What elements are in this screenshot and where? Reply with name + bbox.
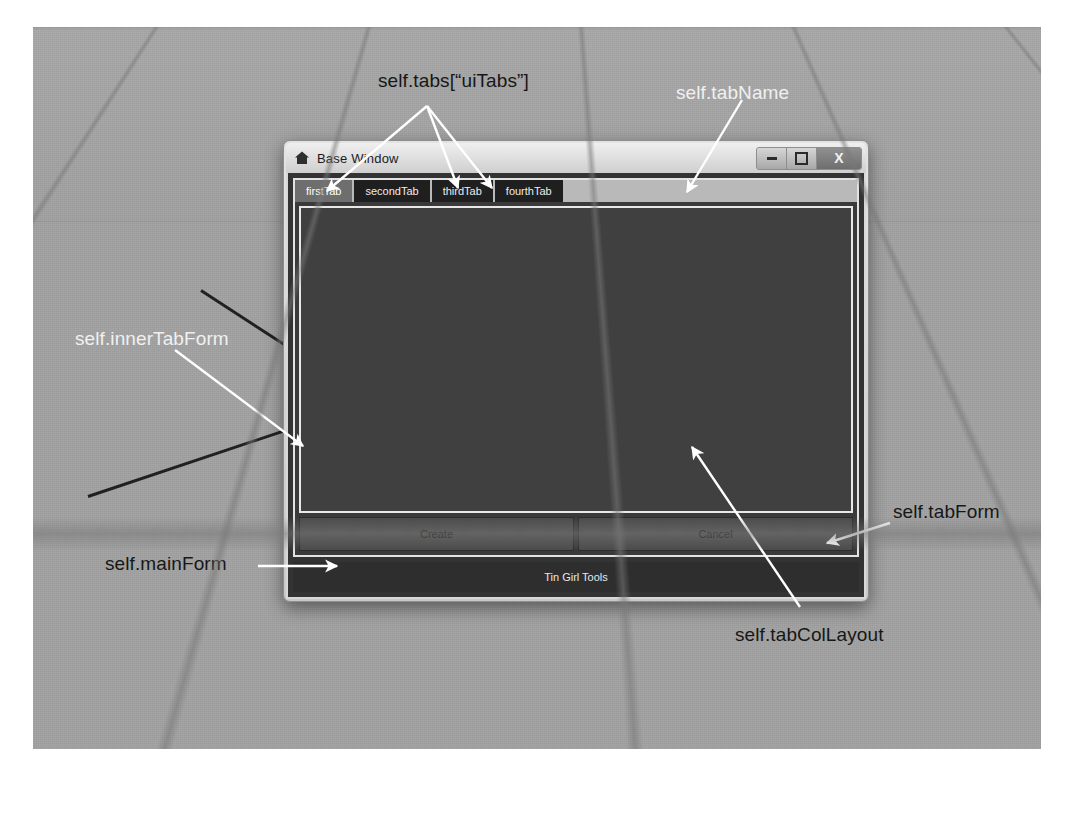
tab-third[interactable]: thirdTab [432,180,495,202]
cancel-button[interactable]: Cancel [578,517,853,551]
tab-label: thirdTab [443,185,482,197]
tab-label: secondTab [365,185,418,197]
tabstrip-empty-area [565,180,857,202]
annotation-tabname: self.tabName [676,82,789,104]
main-form: firstTab secondTab thirdTab fourthTab [286,173,866,599]
annotation-tabform: self.tabForm [893,501,1000,523]
status-bar-text: Tin Girl Tools [544,571,608,583]
window-controls[interactable]: X [756,147,862,170]
maximize-button[interactable] [787,148,817,169]
close-button[interactable]: X [817,148,861,169]
tab-col-layout [295,202,857,517]
tab-form: firstTab secondTab thirdTab fourthTab [293,178,859,557]
tab-label: fourthTab [506,185,552,197]
status-bar: Tin Girl Tools [293,562,859,592]
ui-tabs[interactable]: firstTab secondTab thirdTab fourthTab [295,180,857,202]
base-window[interactable]: Base Window X firstTab secondTab [283,140,869,602]
home-icon [294,150,310,166]
button-row: Create Cancel [295,517,857,555]
tab-second[interactable]: secondTab [354,180,431,202]
annotation-innertabform: self.innerTabForm [75,328,229,350]
window-titlebar[interactable]: Base Window X [286,143,866,173]
close-icon: X [834,151,843,165]
create-button-label: Create [420,528,453,540]
inner-tab-form [299,206,853,513]
tab-fourth[interactable]: fourthTab [495,180,565,202]
annotation-mainform: self.mainForm [105,553,227,575]
maximize-icon [795,152,808,165]
minimize-button[interactable] [757,148,787,169]
annotation-tabcollayout: self.tabColLayout [735,624,884,646]
minimize-icon [767,157,777,160]
create-button[interactable]: Create [299,517,574,551]
window-title: Base Window [317,151,399,166]
tab-first[interactable]: firstTab [295,180,354,202]
cancel-button-label: Cancel [698,528,732,540]
annotation-uitabs: self.tabs[“uiTabs”] [378,70,529,92]
tab-label: firstTab [306,185,341,197]
